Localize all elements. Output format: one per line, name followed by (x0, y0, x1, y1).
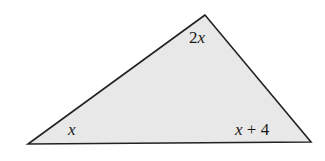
triangle-figure: 2x x x + 4 (0, 0, 325, 161)
bottom-left-angle-variable: x (68, 120, 76, 139)
apex-angle-variable: x (198, 28, 206, 47)
apex-angle-label: 2x (189, 29, 205, 46)
bottom-right-angle-offset: + 4 (243, 120, 270, 139)
triangle-shape (0, 0, 325, 161)
bottom-left-angle-label: x (68, 121, 76, 138)
bottom-right-angle-variable: x (235, 120, 243, 139)
bottom-right-angle-label: x + 4 (235, 121, 269, 138)
apex-angle-coefficient: 2 (189, 28, 198, 47)
